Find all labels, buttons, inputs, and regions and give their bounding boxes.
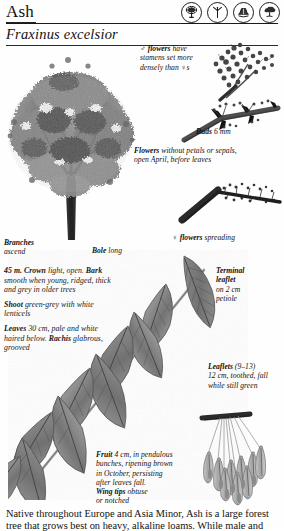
tree-habit-illustration (2, 52, 142, 242)
male-flowers-line3: densely than ♀s (140, 63, 189, 72)
terminal-leaflet-bold-line1: Terminal (216, 266, 244, 275)
male-flowers-line1-rest: have (172, 44, 187, 53)
male-symbol: ♂ (140, 44, 146, 53)
fruit-line3: in October, persisting (96, 469, 163, 478)
terminal-leaflet-bold-line2: leaflet (216, 275, 235, 284)
terminal-leaflet-caption: Terminal leaflet on 2 cm petiole (216, 266, 282, 303)
flowers-general-caption: Flowers without petals or sepals, open A… (134, 146, 282, 165)
wing-tips-line2: or notched (96, 496, 129, 505)
tree-habit-icon[interactable] (181, 2, 202, 23)
buds-caption: Buds 6 mm (196, 127, 231, 136)
leaflets-caption: Leaflets (9–13) 12 cm, toothed, fall whi… (208, 362, 284, 390)
buds-rest: 6 mm (214, 127, 231, 136)
wing-tips-bold: Wing tips (96, 487, 125, 496)
scientific-name: Fraxinus excelsior (6, 26, 118, 43)
female-flowers-caption: ♀ flowers spreading (172, 233, 235, 242)
page-title: Ash (6, 2, 36, 23)
male-flowers-bold: flowers (148, 44, 171, 53)
body-line-1: Native throughout Europe and Asia Minor,… (6, 508, 278, 520)
body-line-2: tree that grows best on heavy, alkaline … (6, 520, 278, 531)
male-flowers-caption: ♂ flowers have stamens set more densely … (140, 44, 210, 72)
male-flowers-line2: stamens set more (140, 53, 193, 62)
female-symbol: ♀ (172, 233, 178, 242)
buds-bold: Buds (196, 127, 212, 136)
fruit-line1: 4 cm, in pendulous (114, 450, 172, 459)
wing-tips-rest: obtuse (127, 487, 147, 496)
fruit-bold: Fruit (96, 450, 112, 459)
symbol-key-row (181, 2, 280, 23)
female-flowers-bold: flowers (180, 233, 203, 242)
header-divider (6, 23, 278, 24)
female-flowers-rest: spreading (204, 233, 235, 242)
branches-bold: Branches (4, 238, 34, 247)
terminal-leaflet-line3: on 2 cm (216, 285, 240, 294)
terminal-leaflet-line4: petiole (216, 294, 237, 303)
body-paragraph: Native throughout Europe and Asia Minor,… (6, 508, 278, 531)
fruit-line4: after leaves fall. (96, 478, 146, 487)
samara-cluster-illustration (196, 408, 284, 512)
leaflets-count: (9–13) (235, 362, 256, 371)
crown-shape-icon[interactable] (259, 2, 280, 23)
female-flower-twig-illustration (178, 176, 284, 234)
flowers-general-line1: without petals or sepals, (161, 146, 237, 155)
bud-twig-illustration (178, 92, 284, 152)
leaflets-line2: 12 cm, toothed, fall (208, 371, 268, 380)
leaflets-line3: while still green (208, 381, 258, 390)
fruit-line2: bunches, ripening brown (96, 459, 173, 468)
flowers-general-bold: Flowers (134, 146, 159, 155)
leaf-shape-icon[interactable] (207, 2, 228, 23)
bark-texture-icon[interactable] (233, 2, 254, 23)
flowers-general-line2: open April, before leaves (134, 155, 211, 164)
leaflets-bold: Leaflets (208, 362, 233, 371)
fruit-caption: Fruit 4 cm, in pendulous bunches, ripeni… (96, 450, 204, 506)
